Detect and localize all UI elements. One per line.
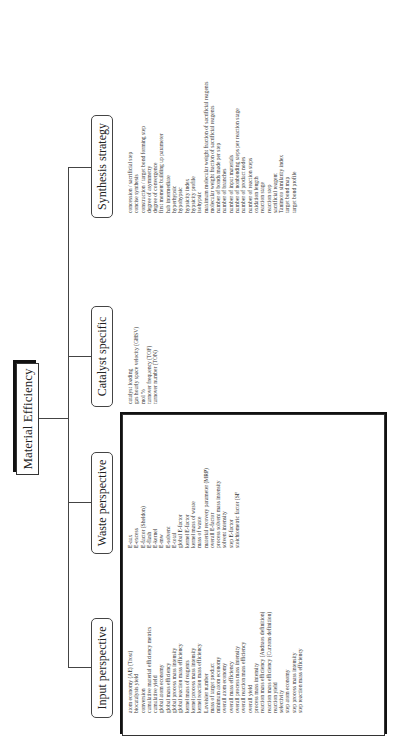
- metric-item: stoichiometric factor (SF: [234, 468, 240, 548]
- catalyst-specific-list: catalyst loadinggas hourly space velocit…: [127, 327, 158, 404]
- synthesis-strategy-list: concession / sacrificial stepconcise syn…: [127, 82, 297, 213]
- category-catalyst-specific: Catalyst specific: [91, 306, 113, 407]
- waste-perspective-list: E-auxE-excessE-factor (Sheldon)E-flashE-…: [127, 468, 240, 548]
- category-bus: [68, 167, 69, 668]
- connector-input: [68, 667, 91, 668]
- category-input-perspective: Input perspective: [91, 618, 113, 718]
- connector-waste: [68, 502, 91, 503]
- metric-item: turnover number (TON): [152, 327, 158, 404]
- category-waste-perspective: Waste perspective: [91, 452, 113, 554]
- category-label: Catalyst specific: [95, 317, 110, 397]
- category-synthesis-strategy: Synthesis strategy: [91, 115, 113, 218]
- input-perspective-list: atom economy (AE) (Trost)biocatalysis yi…: [127, 612, 303, 713]
- diagram-canvas: Material Efficiency Input perspective Wa…: [0, 0, 405, 751]
- connector-synthesis: [68, 167, 91, 168]
- category-label: Input perspective: [95, 627, 110, 710]
- root-connector: [39, 418, 68, 419]
- category-label: Waste perspective: [95, 460, 110, 547]
- metric-item: target bond profile: [291, 82, 297, 213]
- category-label: Synthesis strategy: [95, 123, 110, 210]
- connector-catalyst: [68, 356, 91, 357]
- root-node-material-efficiency: Material Efficiency: [16, 363, 39, 475]
- metric-item: step reaction mass efficiency: [297, 612, 303, 713]
- root-label: Material Efficiency: [20, 368, 36, 469]
